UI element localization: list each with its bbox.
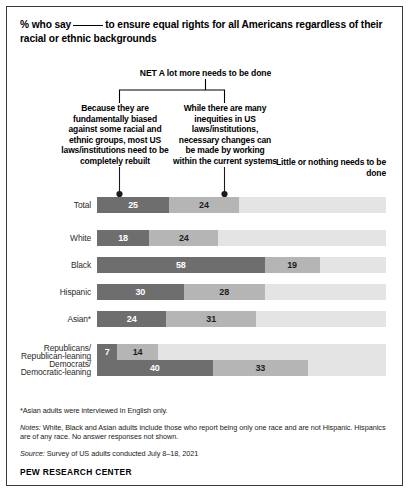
bar-track-total: 25 24: [97, 197, 386, 213]
segment-value-rebuilt: 40: [97, 360, 213, 376]
legend-leader-lines: [7, 167, 404, 199]
row-label-democrats: Democrats/ Democratic-leaning: [7, 360, 91, 377]
segment-value-rebuilt: 7: [97, 344, 117, 360]
footnote-notes: Notes: White, Black and Asian adults inc…: [20, 423, 392, 442]
table-row: Hispanic 30 28: [7, 284, 404, 300]
chart-card: % who sayto ensure equal rights for all …: [6, 6, 403, 486]
bar-track-hispanic: 30 28: [97, 284, 386, 300]
segment-value-rebuilt: 25: [97, 197, 169, 213]
row-label-black: Black: [7, 261, 91, 270]
table-row: Asian* 24 31: [7, 311, 404, 327]
segment-value-within-systems: 33: [213, 360, 308, 376]
title-blank-underline: [73, 25, 103, 26]
chart-title-part2: to ensure equal rights for all Americans…: [20, 19, 382, 44]
bar-track-white: 18 24: [97, 230, 386, 246]
segment-value-within-systems: 24: [169, 197, 238, 213]
row-gap: [7, 213, 404, 230]
bar-track-asian: 24 31: [97, 311, 386, 327]
segment-value-within-systems: 28: [184, 284, 265, 300]
table-row: Democrats/ Democratic-leaning 40 33: [7, 360, 404, 376]
segment-value-rebuilt: 24: [97, 311, 166, 327]
bar-track-democrats: 40 33: [97, 360, 386, 376]
row-gap: [7, 300, 404, 311]
segment-value-within-systems: 31: [166, 311, 256, 327]
legend-item-rebuilt: Because they are fundamentally biased ag…: [61, 103, 169, 167]
row-label-total: Total: [7, 201, 91, 210]
footnote-notes-body: White, Black and Asian adults include th…: [20, 423, 386, 442]
brand-label: PEW RESEARCH CENTER: [20, 467, 392, 477]
table-row: Black 58 19: [7, 257, 404, 273]
segment-value-rebuilt: 30: [97, 284, 184, 300]
bar-rows: Total 25 24 White 18 24 Black: [7, 197, 404, 376]
segment-value-rebuilt: 58: [97, 257, 265, 273]
row-label-hispanic: Hispanic: [7, 288, 91, 297]
footnote-source-prefix: Source:: [20, 449, 45, 458]
net-bracket: [7, 79, 404, 103]
table-row: White 18 24: [7, 230, 404, 246]
legend-item-within-systems: While there are many inequities in US la…: [173, 103, 277, 167]
footnote-notes-prefix: Notes:: [20, 423, 41, 432]
segment-value-within-systems: 19: [265, 257, 320, 273]
row-label-line2: Democratic-leaning: [7, 368, 91, 377]
row-gap: [7, 273, 404, 284]
segment-value-within-systems: 14: [117, 344, 157, 360]
row-gap: [7, 327, 404, 344]
footnote-asterisk: *Asian adults were interviewed in Englis…: [20, 406, 392, 416]
net-label: NET A lot more needs to be done: [7, 68, 404, 78]
row-label-white: White: [7, 234, 91, 243]
legend: Because they are fundamentally biased ag…: [7, 103, 404, 171]
footnote-source-body: Survey of US adults conducted July 8–18,…: [47, 449, 199, 458]
footnotes: *Asian adults were interviewed in Englis…: [20, 406, 392, 477]
row-label-asian: Asian*: [7, 315, 91, 324]
bar-track-black: 58 19: [97, 257, 386, 273]
chart-title: % who sayto ensure equal rights for all …: [20, 18, 388, 46]
segment-value-within-systems: 24: [149, 230, 218, 246]
table-row: Total 25 24: [7, 197, 404, 213]
row-gap: [7, 246, 404, 257]
table-row: Republicans/ Republican-leaning 7 14: [7, 344, 404, 360]
segment-value-rebuilt: 18: [97, 230, 149, 246]
footnote-source: Source: Survey of US adults conducted Ju…: [20, 449, 392, 459]
bar-track-republicans: 7 14: [97, 344, 386, 360]
chart-title-part1: % who say: [20, 19, 71, 30]
